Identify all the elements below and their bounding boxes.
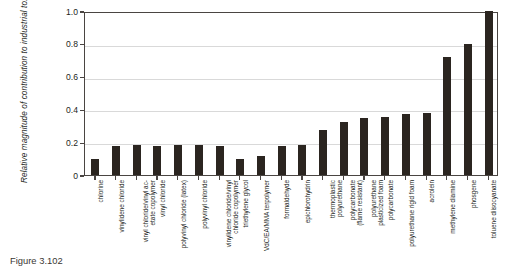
x-axis-tick-label-line: acrolein (428, 180, 435, 254)
plot-area (84, 12, 498, 176)
x-axis-tick-label: formaldehyde (283, 180, 290, 254)
x-axis-tick-label: polyvinyl chloride (latex) (180, 180, 187, 254)
bar-series (85, 13, 497, 175)
x-axis-tick (260, 176, 261, 180)
x-axis-tick-label: polyvinyl chloride (201, 180, 208, 254)
bar (423, 113, 431, 175)
x-axis-tick-label: chlorine (97, 180, 104, 254)
x-axis-tick (343, 176, 344, 180)
x-axis-tick (239, 176, 240, 180)
x-axis-tick-label-line: thermoplastic (329, 180, 336, 254)
bar (91, 159, 99, 175)
y-axis-tick-label: 1.0 (56, 8, 78, 17)
bar (298, 145, 306, 175)
x-axis-tick-label-line: polyurethane rigid foam (408, 180, 415, 254)
x-axis-tick-label: vinylidene chloride (118, 180, 125, 254)
bar (216, 146, 224, 175)
x-axis-tick-label-line: vinylidene chloride/vinyl (225, 180, 232, 254)
x-axis-tick-label-line: triethylene glycol (242, 180, 249, 254)
x-axis-tick-label-line: polyvinyl chloride (201, 180, 208, 254)
x-axis-tick (301, 176, 302, 180)
y-axis-tick-label: 0.2 (56, 139, 78, 148)
x-axis-tick-label-line: methylene diamine (449, 180, 456, 254)
x-axis-tick-label-line: epichlorohydrin (304, 180, 311, 254)
x-axis-tick-label-line: polyurethane (370, 180, 377, 254)
x-axis-tick (198, 176, 199, 180)
x-axis-tick (219, 176, 220, 180)
bar (257, 156, 265, 175)
x-axis-tick-label: vinyl chloride/vinyl ac-etate copolymer (142, 180, 157, 254)
x-axis-tick-label-line: polycarbonate (387, 180, 394, 254)
bar (195, 145, 203, 175)
y-axis-tick-label: 0.6 (56, 73, 78, 82)
y-axis-tick-label: 0.4 (56, 106, 78, 115)
bar (133, 145, 141, 175)
x-axis-tick-label-line: (flame resistant) (357, 180, 364, 254)
x-axis-tick-label: acrolein (428, 180, 435, 254)
x-axis-tick (426, 176, 427, 180)
x-axis-tick-label: VdC/EA/MMA terpolymer (263, 180, 270, 254)
x-axis-tick (467, 176, 468, 180)
bar (402, 114, 410, 176)
x-axis-tick-label-line: vinylidene chloride (118, 180, 125, 254)
x-axis-tick-label: epichlorohydrin (304, 180, 311, 254)
bar (340, 122, 348, 175)
x-axis-tick (488, 176, 489, 180)
x-axis-tick (136, 176, 137, 180)
x-axis-tick-label: polycarbonate (387, 180, 394, 254)
x-axis-tick-label: phosgene (470, 180, 477, 254)
bar (278, 146, 286, 175)
x-axis-tick-label-line: toluene diisocyanate (490, 180, 497, 254)
x-axis-tick-label: polycarbonate(flame resistant) (349, 180, 364, 254)
bar (236, 159, 244, 175)
x-axis-tick-label: vinylidene chloride/vinylchloride copoly… (225, 180, 240, 254)
x-axis-label-group: chlorinevinylidene chloridevinyl chlorid… (84, 180, 498, 258)
x-axis-tick (322, 176, 323, 180)
x-axis-tick-label-line: phosgene (470, 180, 477, 254)
x-axis-tick-label: vinyl chloride (159, 180, 166, 254)
y-axis-tick-label: 0.8 (56, 40, 78, 49)
x-axis-tick (94, 176, 95, 180)
x-axis-tick (384, 176, 385, 180)
bar (381, 117, 389, 175)
x-axis-tick-label: thermoplasticpolyurethane (329, 180, 344, 254)
x-axis-tick (156, 176, 157, 180)
x-axis-tick-label-line: VdC/EA/MMA terpolymer (263, 180, 270, 254)
x-axis-tick-label: toluene diisocyanate (490, 180, 497, 254)
figure-caption: Figure 3.102 (10, 255, 63, 267)
x-axis-tick-label-line: chloride copolymer (232, 180, 239, 254)
bar (360, 118, 368, 175)
x-axis-tick (405, 176, 406, 180)
y-axis-title: Relative magnitude of contribution to in… (20, 0, 30, 183)
x-axis-tick-label-line: plasticized foam (377, 180, 384, 254)
y-axis-tick-label: 0 (56, 172, 78, 181)
x-axis-tick-label-line: etate copolymer (150, 180, 157, 254)
bar (464, 44, 472, 175)
bar (443, 57, 451, 175)
bar (319, 130, 327, 175)
x-axis-tick (446, 176, 447, 180)
x-axis-tick (115, 176, 116, 180)
x-axis-tick (177, 176, 178, 180)
x-axis-tick-label: polyurethane rigid foam (408, 180, 415, 254)
bar (112, 146, 120, 175)
x-axis-tick-label: polyurethaneplasticized foam (370, 180, 385, 254)
x-axis-tick-label: methylene diamine (449, 180, 456, 254)
figure-container: Relative magnitude of contribution to in… (0, 0, 526, 277)
x-axis-tick-label: triethylene glycol (242, 180, 249, 254)
x-axis-tick-label-line: vinyl chloride (159, 180, 166, 254)
x-axis-tick-label-line: polyvinyl chloride (latex) (180, 180, 187, 254)
x-axis-tick (363, 176, 364, 180)
x-axis-tick-label-line: chlorine (97, 180, 104, 254)
x-axis-tick-label-line: formaldehyde (283, 180, 290, 254)
bar (174, 145, 182, 175)
x-axis-tick (281, 176, 282, 180)
bar (485, 11, 493, 175)
x-axis-tick-label-line: polyurethane (336, 180, 343, 254)
bar (153, 146, 161, 175)
